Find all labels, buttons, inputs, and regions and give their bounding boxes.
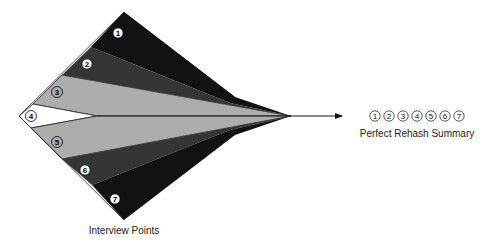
summary-number-3: 3 [398, 111, 408, 121]
svg-text:3: 3 [401, 112, 406, 121]
summary-numbers: 1 2 3 4 5 6 7 [370, 111, 464, 121]
summary-number-1: 1 [370, 111, 380, 121]
summary-number-7: 7 [454, 111, 464, 121]
summary-number-4: 4 [412, 111, 422, 121]
band-marker-1: 1 [113, 28, 123, 38]
svg-text:2: 2 [387, 112, 392, 121]
interview-rehash-diagram: 1 2 3 4 5 6 7 Interview Points 1 2 3 4 5… [0, 0, 492, 250]
interview-points-label: Interview Points [89, 225, 160, 236]
svg-text:5: 5 [55, 138, 60, 147]
band-marker-6: 6 [80, 165, 90, 175]
svg-text:7: 7 [457, 112, 462, 121]
svg-text:7: 7 [113, 195, 118, 204]
svg-text:2: 2 [85, 60, 90, 69]
summary-number-6: 6 [440, 111, 450, 121]
perfect-rehash-summary-label: Perfect Rehash Summary [360, 128, 475, 139]
band-marker-2: 2 [82, 59, 92, 69]
svg-text:1: 1 [373, 112, 378, 121]
svg-text:6: 6 [443, 112, 448, 121]
svg-text:6: 6 [83, 166, 88, 175]
svg-text:1: 1 [116, 29, 121, 38]
summary-number-5: 5 [426, 111, 436, 121]
svg-text:4: 4 [415, 112, 420, 121]
svg-text:5: 5 [429, 112, 434, 121]
summary-number-2: 2 [384, 111, 394, 121]
band-marker-7: 7 [110, 194, 120, 204]
svg-text:4: 4 [29, 112, 34, 121]
svg-text:3: 3 [55, 88, 60, 97]
